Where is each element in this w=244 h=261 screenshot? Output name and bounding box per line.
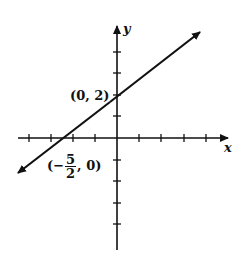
x-intercept-label: (−52, 0) — [47, 153, 101, 180]
plotted-line — [110, 32, 200, 102]
y-intercept-label: (0, 2) — [70, 88, 109, 103]
x-axis-label: x — [224, 140, 232, 155]
fraction-numerator: 5 — [65, 153, 76, 167]
fraction-denominator: 2 — [66, 167, 75, 180]
fraction: 52 — [65, 153, 76, 180]
x-intercept-open: (− — [47, 158, 64, 173]
plot-area — [0, 0, 244, 261]
chart-container: y x (0, 2) (−52, 0) — [0, 0, 244, 261]
x-intercept-close: , 0) — [77, 158, 101, 173]
y-axis-label: y — [123, 21, 131, 36]
